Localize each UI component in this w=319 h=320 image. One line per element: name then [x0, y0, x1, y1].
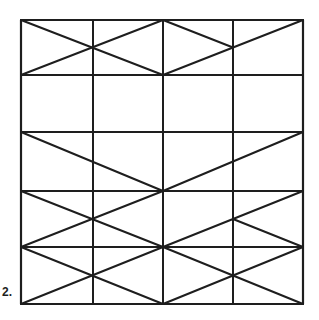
- diagonal-line-row4-diag-d: [233, 219, 303, 247]
- grid-figure: [0, 0, 319, 320]
- figure-label: 2.: [2, 285, 12, 299]
- diagonal-line-row1-diag-c: [163, 20, 233, 48]
- grid-lines: [21, 20, 303, 304]
